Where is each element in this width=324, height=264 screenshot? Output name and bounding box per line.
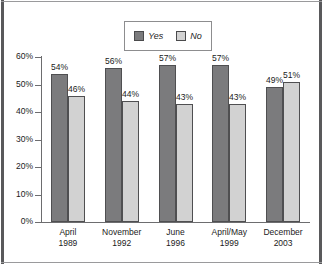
x-axis-category-label: April1989 — [41, 227, 95, 249]
bar-no-3 — [229, 104, 246, 222]
chart-legend: Yes No — [124, 21, 212, 51]
bar-no-4 — [283, 82, 300, 222]
x-axis-category-year: 1996 — [149, 238, 203, 249]
y-axis-tick-label: 50% — [0, 80, 33, 90]
y-axis-tick-label-text: 0% — [3, 217, 33, 226]
y-axis-tick-label: 0% — [0, 217, 33, 227]
y-axis-tick-label-text: 50% — [3, 80, 33, 89]
legend-entry-yes: Yes — [134, 31, 163, 41]
bar-value-label-yes-1: 56% — [101, 57, 127, 66]
y-axis-tick — [35, 195, 41, 196]
x-axis-category-month: April/May — [212, 227, 247, 237]
x-axis-category-year: 1999 — [202, 238, 256, 249]
y-axis-tick — [35, 112, 41, 113]
bar-yes-2 — [159, 65, 176, 222]
y-axis-tick-label-text: 10% — [3, 190, 33, 199]
y-axis-tick-label: 60% — [0, 52, 33, 62]
frame-border-bottom — [1, 262, 322, 263]
bar-no-0 — [68, 96, 85, 223]
x-axis-line — [41, 222, 310, 223]
bar-value-label-no-2: 43% — [172, 93, 198, 102]
x-axis-category-month: June — [166, 227, 184, 237]
legend-entries: Yes No — [125, 22, 211, 50]
legend-label-yes: Yes — [148, 32, 163, 41]
bar-yes-0 — [51, 74, 68, 223]
frame-border-right — [319, 0, 322, 264]
x-axis-category-month: December — [263, 227, 302, 237]
y-axis-tick-label: 30% — [0, 135, 33, 145]
x-axis-category-label: June1996 — [149, 227, 203, 249]
y-axis-line — [41, 56, 42, 223]
y-axis-tick-label: 40% — [0, 107, 33, 117]
x-axis-category-month: April — [59, 227, 76, 237]
x-axis-category-month: November — [102, 227, 141, 237]
legend-swatch-no-icon — [176, 31, 186, 41]
y-axis-tick — [35, 85, 41, 86]
bar-value-label-yes-0: 54% — [47, 63, 73, 72]
y-axis-tick-label-text: 60% — [3, 52, 33, 61]
bar-value-label-yes-2: 57% — [155, 54, 181, 63]
x-axis-category-label: April/May1999 — [202, 227, 256, 249]
y-axis-tick-label: 10% — [0, 190, 33, 200]
legend-label-no: No — [190, 32, 202, 41]
bar-chart-figure: Yes No 0%10%20%30%40%50%60% 54%46%56%44%… — [0, 0, 324, 264]
bar-value-label-yes-3: 57% — [208, 54, 234, 63]
bar-yes-3 — [212, 65, 229, 222]
x-axis-category-label: November1992 — [95, 227, 149, 249]
y-axis-tick-label-text: 30% — [3, 135, 33, 144]
bar-value-label-no-0: 46% — [64, 85, 90, 94]
y-axis-tick — [35, 57, 41, 58]
y-axis-tick-label-text: 20% — [3, 162, 33, 171]
bar-value-label-no-3: 43% — [225, 93, 251, 102]
y-axis-tick — [35, 140, 41, 141]
y-axis-tick — [35, 167, 41, 168]
x-axis-category-year: 2003 — [256, 238, 310, 249]
bar-value-label-no-4: 51% — [279, 71, 305, 80]
bar-no-1 — [122, 101, 139, 222]
y-axis-tick-label: 20% — [0, 162, 33, 172]
legend-entry-no: No — [176, 31, 202, 41]
bar-no-2 — [176, 104, 193, 222]
x-axis-category-year: 1992 — [95, 238, 149, 249]
x-axis-category-label: December2003 — [256, 227, 310, 249]
legend-swatch-yes-icon — [134, 31, 144, 41]
x-axis-category-year: 1989 — [41, 238, 95, 249]
y-axis-tick-label-text: 40% — [3, 107, 33, 116]
bar-yes-4 — [266, 87, 283, 222]
y-axis-tick — [35, 222, 41, 223]
frame-border-top — [1, 1, 322, 2]
bar-value-label-no-1: 44% — [118, 90, 144, 99]
